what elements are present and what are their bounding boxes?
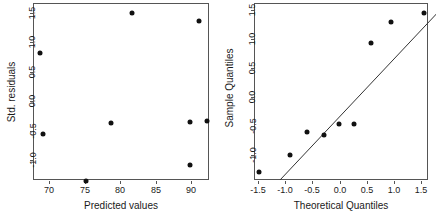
qq-plot-x-tick-label: 0.0: [334, 186, 347, 195]
qq-plot-x-tick-label: -0.5: [304, 186, 320, 195]
residual-plot-x-tick: [49, 181, 50, 184]
qq-plot-x-tick-label: 1.5: [415, 186, 428, 195]
qq-plot-y-tick: [251, 10, 254, 11]
qq-plot-x-tick: [285, 181, 286, 184]
data-point: [352, 122, 357, 127]
qq-plot-area: [254, 3, 428, 180]
qq-plot-x-axis-title: Theoretical Quantiles: [294, 201, 389, 211]
qq-plot-x-tick: [394, 181, 395, 184]
qq-plot-y-tick: [251, 68, 254, 69]
qq-plot-x-tick-label: -1.5: [250, 186, 266, 195]
residual-plot-x-tick-label: 70: [44, 186, 54, 195]
qq-plot-y-tick: [251, 155, 254, 156]
residual-plot-x-tick-label: 80: [115, 186, 125, 195]
residual-plot-x-tick-label: 75: [80, 186, 90, 195]
residual-plot-x-axis-title: Predicted values: [84, 201, 158, 211]
qq-plot-x-tick-label: 1.0: [388, 186, 401, 195]
residual-plot-y-tick: [30, 101, 33, 102]
qq-plot-x-tick: [258, 181, 259, 184]
data-point: [188, 163, 193, 168]
qq-plot-x-tick: [312, 181, 313, 184]
residual-plot-x-tick-label: 90: [186, 186, 196, 195]
residual-plot-y-tick: [30, 72, 33, 73]
data-point: [322, 133, 327, 138]
residual-plot-x-tick: [156, 181, 157, 184]
data-point: [369, 41, 374, 46]
qq-plot-x-tick: [367, 181, 368, 184]
data-point: [197, 19, 202, 24]
qq-plot-x-tick-label: 0.5: [361, 186, 374, 195]
residual-plot-panel: Std. residuals Predicted values 1.5 1.0 …: [0, 0, 218, 217]
residual-plot-y-tick: [30, 160, 33, 161]
data-point: [257, 170, 262, 175]
residual-plot-x-tick: [120, 181, 121, 184]
residual-plot-y-tick: [30, 13, 33, 14]
data-point: [422, 11, 427, 16]
residual-plot-y-axis-title: Std. residuals: [7, 62, 17, 123]
data-point: [84, 179, 89, 184]
qq-plot-y-tick: [251, 97, 254, 98]
data-point: [130, 11, 135, 16]
data-point: [389, 20, 394, 25]
data-point: [337, 122, 342, 127]
data-point: [205, 119, 210, 124]
residual-plot-y-tick: [30, 131, 33, 132]
data-point: [109, 121, 114, 126]
qq-plot-panel: Sample Quantiles Theoretical Quantiles 1…: [218, 0, 436, 217]
residual-plot-area: [33, 3, 209, 180]
qq-plot-y-axis-title: Sample Quantiles: [225, 49, 235, 128]
data-point: [288, 153, 293, 158]
data-point: [188, 120, 193, 125]
qq-plot-y-tick: [251, 39, 254, 40]
qq-plot-x-tick-label: -1.0: [277, 186, 293, 195]
residual-plot-x-tick-label: 85: [151, 186, 161, 195]
data-point: [38, 51, 43, 56]
residual-plot-x-tick: [191, 181, 192, 184]
data-point: [305, 130, 310, 135]
qq-plot-x-tick: [421, 181, 422, 184]
data-point: [41, 132, 46, 137]
qq-plot-y-tick: [251, 126, 254, 127]
qq-plot-x-tick: [340, 181, 341, 184]
residual-plot-y-tick: [30, 42, 33, 43]
